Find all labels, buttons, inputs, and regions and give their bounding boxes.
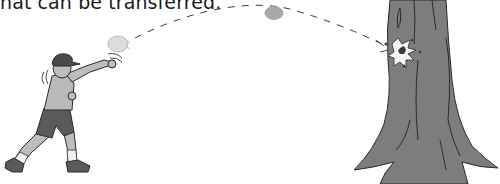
boy-figure — [5, 54, 122, 173]
ball-near-hand-icon — [108, 36, 130, 52]
ball-trajectory-path — [135, 5, 390, 48]
cap-icon — [52, 54, 80, 66]
illustration-scene — [0, 0, 500, 184]
illustration-canvas: hat can be transferred. — [0, 0, 500, 184]
tree-trunk — [354, 0, 498, 184]
ball-midair-icon — [265, 7, 283, 20]
